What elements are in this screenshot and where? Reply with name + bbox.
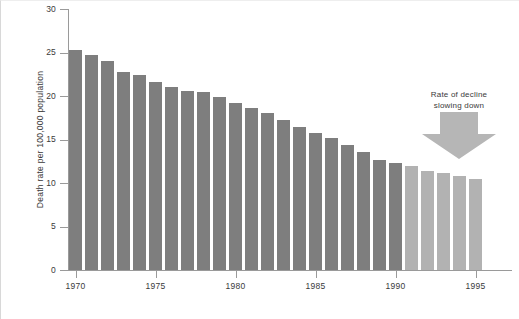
annotation-text: Rate of decline slowing down xyxy=(403,90,515,111)
bar-1983 xyxy=(277,120,290,271)
bar-1992 xyxy=(421,171,434,270)
bar-1990 xyxy=(389,163,402,270)
bar-1993 xyxy=(437,173,450,270)
down-arrow-icon xyxy=(421,112,497,160)
bar-1984 xyxy=(293,127,306,270)
bar-1971 xyxy=(85,55,98,270)
bar-1974 xyxy=(133,75,146,270)
bar-1989 xyxy=(373,160,386,270)
bar-1977 xyxy=(181,91,194,270)
bar-1986 xyxy=(325,138,338,270)
bar-1994 xyxy=(453,176,466,270)
bar-1978 xyxy=(197,92,210,270)
bar-1988 xyxy=(357,152,370,270)
bar-chart: Death rate per 100,000 population 051015… xyxy=(0,0,519,319)
bar-1987 xyxy=(341,145,354,270)
bar-1991 xyxy=(405,166,418,270)
bar-1970 xyxy=(69,50,82,270)
bar-1980 xyxy=(229,103,242,270)
bars-group xyxy=(1,1,519,319)
annotation-line-2: slowing down xyxy=(403,101,515,112)
bar-1982 xyxy=(261,113,274,270)
bar-1985 xyxy=(309,133,322,270)
bar-1981 xyxy=(245,108,258,270)
bar-1979 xyxy=(213,97,226,270)
bar-1976 xyxy=(165,87,178,270)
annotation-line-1: Rate of decline xyxy=(403,90,515,101)
bar-1975 xyxy=(149,82,162,270)
bar-1995 xyxy=(469,179,482,270)
bar-1972 xyxy=(101,61,114,270)
bar-1973 xyxy=(117,72,130,270)
